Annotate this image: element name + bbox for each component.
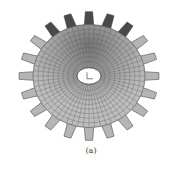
gear-icon — [19, 12, 159, 141]
figure-caption: (a) — [0, 146, 182, 155]
figure: (a) — [0, 0, 182, 174]
bore-hole — [77, 68, 101, 85]
